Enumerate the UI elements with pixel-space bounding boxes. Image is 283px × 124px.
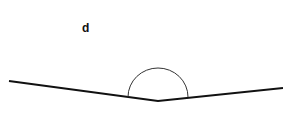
angle-label: d [82,22,89,34]
angle-arc [128,68,188,97]
angle-figure [0,0,283,124]
angle-diagram: d [0,0,283,124]
bent-line [9,81,283,101]
